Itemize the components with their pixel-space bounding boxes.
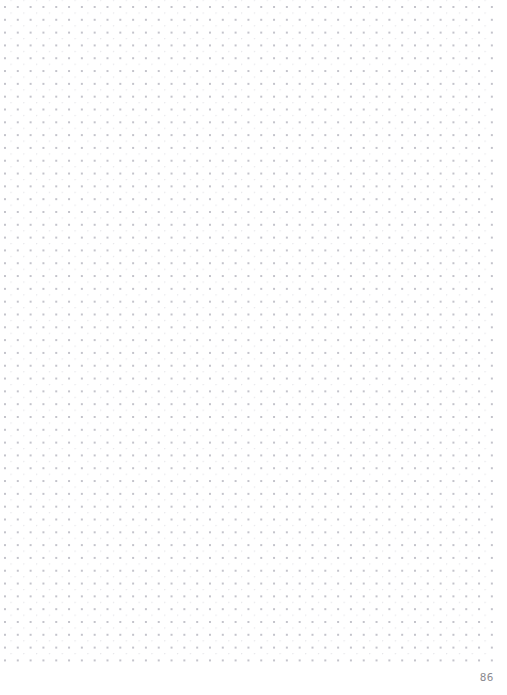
page-number: 86 [480,672,494,684]
notebook-page: 86 [0,0,507,695]
dot-grid-background [0,0,495,663]
